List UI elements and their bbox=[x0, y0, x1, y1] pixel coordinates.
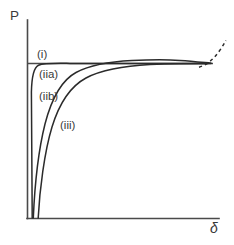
plot-canvas bbox=[0, 0, 234, 245]
curve-label-iia: (iia) bbox=[39, 69, 58, 81]
curve-iia-path bbox=[31, 63, 208, 218]
curve-iii-path bbox=[38, 64, 211, 219]
curve-label-i: (i) bbox=[37, 49, 47, 61]
y-axis-label: P bbox=[10, 9, 19, 23]
x-axis-label: δ bbox=[210, 221, 218, 235]
curve-label-iii: (iii) bbox=[60, 120, 75, 132]
figure-container: P δ (i) (iia) (iib) (iii) bbox=[0, 0, 234, 245]
curve-label-iib: (iib) bbox=[39, 91, 58, 103]
curve-iib-path bbox=[33, 60, 211, 218]
